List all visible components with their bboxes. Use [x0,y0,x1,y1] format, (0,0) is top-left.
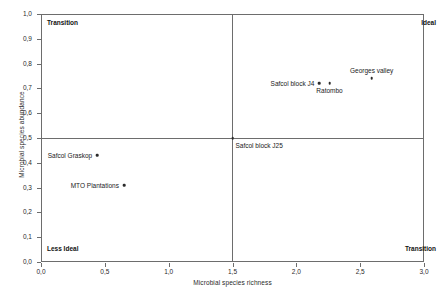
data-point-label: Safcol block J25 [236,142,283,149]
x-tick-mark [169,263,170,267]
y-tick-label: 0,9 [8,35,32,42]
y-tick-label: 0,2 [8,208,32,215]
y-tick-mark [37,113,41,114]
data-point-marker[interactable] [96,154,99,157]
data-point-marker[interactable] [123,184,126,187]
y-tick-label: 1,0 [8,10,32,17]
y-tick-mark [37,163,41,164]
quadrant-label-top-left: Transition [47,19,78,26]
y-tick-mark [37,188,41,189]
y-tick-label: 0,1 [8,233,32,240]
y-tick-mark [37,138,41,139]
y-tick-mark [37,39,41,40]
data-point-label: MTO Plantations [71,182,119,189]
data-point-label: Safcol Graskop [48,152,92,159]
x-tick-mark [296,263,297,267]
y-axis-title: Microbial species abundance [18,65,25,205]
data-point-label: Ratombo [316,87,342,94]
x-tick-label: 2,0 [281,268,311,275]
x-tick-mark [105,263,106,267]
x-tick-mark [41,263,42,267]
x-tick-mark [424,263,425,267]
data-point-marker[interactable] [318,82,321,85]
y-tick-mark [37,88,41,89]
quadrant-label-top-right: Ideal [421,19,436,26]
x-tick-label: 3,0 [409,268,439,275]
y-tick-label: 0,0 [8,258,32,265]
y-tick-mark [37,262,41,263]
y-tick-mark [37,212,41,213]
x-axis-title: Microbial species richness [41,279,424,286]
quadrant-label-bottom-left: Less Ideal [47,245,78,252]
x-tick-label: 2,5 [345,268,375,275]
data-point-marker[interactable] [231,137,234,140]
x-tick-label: 0,0 [26,268,56,275]
data-point-marker[interactable] [328,82,331,85]
data-point-label: Safcol block J4 [271,80,315,87]
scatter-chart: 0,00,51,01,52,02,53,0 0,00,10,20,30,40,5… [0,0,440,296]
data-point-label: Georges valley [350,67,393,74]
data-point-marker[interactable] [370,77,373,80]
x-tick-label: 1,5 [218,268,248,275]
x-tick-mark [360,263,361,267]
y-tick-mark [37,237,41,238]
y-tick-mark [37,64,41,65]
quadrant-label-bottom-right: Transition [405,245,436,252]
y-tick-mark [37,14,41,15]
x-tick-label: 0,5 [90,268,120,275]
x-tick-label: 1,0 [154,268,184,275]
x-tick-mark [233,263,234,267]
